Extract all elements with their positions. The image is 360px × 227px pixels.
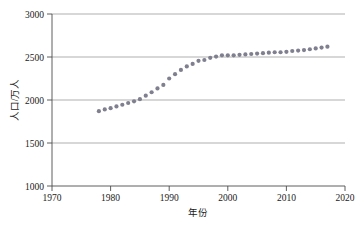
data-point	[255, 51, 259, 55]
data-point	[214, 54, 218, 58]
data-point	[237, 53, 241, 57]
data-point	[261, 51, 265, 55]
data-point	[249, 52, 253, 56]
x-tick-label-1970: 1970	[43, 193, 62, 203]
y-axis-ticks	[47, 14, 52, 186]
data-point	[208, 56, 212, 60]
data-point	[278, 50, 282, 54]
data-point	[325, 45, 329, 49]
x-tick-label-2010: 2010	[277, 193, 296, 203]
data-point	[185, 64, 189, 68]
population-scatter-chart: 3000 2500 2000 1500 1000 1970 1980 1990 …	[0, 0, 360, 227]
y-tick-label-2000: 2000	[25, 96, 44, 106]
data-point	[161, 83, 165, 87]
y-tick-label-1000: 1000	[25, 182, 44, 192]
data-point	[132, 99, 136, 103]
y-axis-title: 人口/万人	[10, 79, 20, 122]
data-point	[196, 59, 200, 63]
data-point	[243, 52, 247, 56]
data-point	[290, 49, 294, 53]
x-axis-title: 年份	[188, 207, 208, 218]
data-point	[109, 106, 113, 110]
data-point	[97, 109, 101, 113]
data-point	[120, 103, 124, 107]
x-tick-label-1980: 1980	[101, 193, 120, 203]
data-point	[232, 53, 236, 57]
data-point	[167, 76, 171, 80]
data-point	[103, 107, 107, 111]
data-point	[302, 48, 306, 52]
data-point	[308, 47, 312, 51]
data-point	[191, 62, 195, 66]
y-axis-tick-labels: 3000 2500 2000 1500 1000	[25, 10, 44, 192]
y-tick-label-3000: 3000	[25, 10, 44, 20]
data-point-group	[97, 45, 330, 114]
data-point	[114, 104, 118, 108]
x-tick-label-1990: 1990	[160, 193, 179, 203]
x-tick-label-2020: 2020	[336, 193, 355, 203]
data-point	[155, 86, 159, 90]
x-axis-ticks	[52, 186, 345, 191]
data-point	[226, 53, 230, 57]
data-point	[173, 72, 177, 76]
data-point	[296, 48, 300, 52]
data-point	[314, 46, 318, 50]
y-tick-label-2500: 2500	[25, 53, 44, 63]
plot-gridlines	[52, 14, 345, 143]
data-point	[202, 58, 206, 62]
data-point	[138, 97, 142, 101]
data-point	[126, 101, 130, 105]
chart-figure: 3000 2500 2000 1500 1000 1970 1980 1990 …	[0, 0, 360, 227]
data-point	[267, 51, 271, 55]
data-point	[273, 50, 277, 54]
data-point	[144, 94, 148, 98]
data-point	[220, 53, 224, 57]
y-tick-label-1500: 1500	[25, 139, 44, 149]
data-point	[150, 90, 154, 94]
data-point	[179, 68, 183, 72]
x-axis-tick-labels: 1970 1980 1990 2000 2010 2020	[43, 193, 355, 203]
x-tick-label-2000: 2000	[218, 193, 237, 203]
data-point	[319, 45, 323, 49]
data-point	[284, 50, 288, 54]
